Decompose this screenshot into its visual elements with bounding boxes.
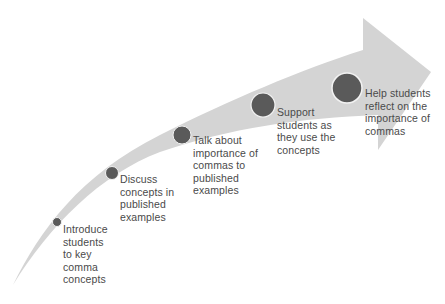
- step-3-line-2: importance of: [193, 147, 258, 160]
- step-4-line-4: concepts: [277, 144, 335, 157]
- step-5-line-1: Help students: [365, 87, 431, 100]
- step-4-line-3: they use the: [277, 131, 335, 144]
- step-1-marker: [53, 218, 62, 227]
- step-2-line-2: concepts in: [120, 186, 174, 199]
- step-1-label: Introduce students to key comma concepts: [63, 223, 108, 286]
- step-1-line-1: Introduce: [63, 223, 108, 236]
- step-1-line-5: concepts: [63, 273, 108, 286]
- step-4-line-2: students as: [277, 119, 335, 132]
- step-3-line-4: published: [193, 172, 258, 185]
- step-3-label: Talk about importance of commas to publi…: [193, 134, 258, 197]
- step-3-line-5: examples: [193, 184, 258, 197]
- step-2-label: Discuss concepts in published examples: [120, 173, 174, 223]
- step-4-label: Support students as they use the concept…: [277, 106, 335, 156]
- step-4-marker: [251, 93, 275, 117]
- step-5-label: Help students reflect on the importance …: [365, 87, 431, 137]
- step-3-marker: [173, 126, 191, 144]
- step-1-line-3: to key: [63, 248, 108, 261]
- step-3-line-3: commas to: [193, 159, 258, 172]
- step-5-line-4: commas: [365, 125, 431, 138]
- step-2-line-3: published: [120, 198, 174, 211]
- step-1-line-2: students: [63, 236, 108, 249]
- step-2-line-4: examples: [120, 211, 174, 224]
- step-4-line-1: Support: [277, 106, 335, 119]
- step-5-line-2: reflect on the: [365, 100, 431, 113]
- step-2-line-1: Discuss: [120, 173, 174, 186]
- step-1-line-4: comma: [63, 261, 108, 274]
- step-5-marker: [332, 73, 362, 103]
- step-2-marker: [106, 167, 119, 180]
- step-3-line-1: Talk about: [193, 134, 258, 147]
- step-5-line-3: importance of: [365, 112, 431, 125]
